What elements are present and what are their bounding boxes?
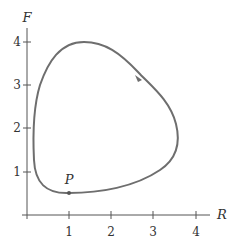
x-axis-label: R: [216, 207, 227, 222]
y-tick-label: 1: [13, 165, 21, 179]
point-p-marker: [67, 191, 71, 195]
x-tick-label: 4: [192, 225, 200, 239]
y-tick-label: 3: [13, 78, 21, 92]
phase-plot: 1 2 3 4 1 2 3 4 R F P: [0, 0, 232, 252]
y-tick-label: 4: [13, 35, 21, 49]
trajectory-curve: [34, 42, 178, 193]
x-tick-label: 3: [149, 225, 157, 239]
y-axis-label: F: [21, 10, 32, 25]
x-tick-label: 2: [107, 225, 115, 239]
point-p-label: P: [64, 172, 74, 187]
x-tick-label: 1: [65, 225, 73, 239]
y-tick-label: 2: [13, 121, 21, 135]
